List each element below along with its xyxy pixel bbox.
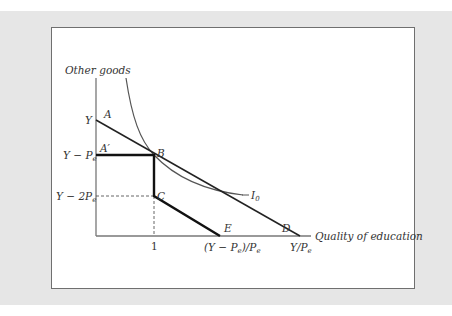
point-label-a-prime: A′	[99, 142, 111, 154]
economics-diagram: Other goods Quality of education Y Y − P…	[0, 0, 452, 316]
indifference-curve-label: I0	[250, 189, 260, 203]
point-label-b: B	[156, 147, 165, 159]
x-tick-1: 1	[151, 240, 158, 252]
point-label-d: D	[281, 222, 291, 234]
y-tick-y-minus-pe: Y − Pe	[63, 149, 97, 163]
x-tick-y-over-pe: Y/Pe	[290, 241, 312, 255]
budget-line-ad	[96, 120, 300, 236]
x-axis-label: Quality of education	[315, 230, 423, 243]
y-axis-label: Other goods	[65, 64, 131, 76]
y-tick-y-minus-2pe: Y − 2Pe	[56, 190, 96, 204]
y-tick-y: Y	[85, 114, 93, 126]
point-label-a: A	[103, 108, 112, 120]
point-label-e: E	[223, 222, 232, 234]
x-tick-y-minus-pe-over-pe: (Y − Pe)/Pe	[204, 241, 261, 255]
indifference-curve-i0	[126, 78, 243, 195]
point-label-c: C	[157, 190, 165, 202]
